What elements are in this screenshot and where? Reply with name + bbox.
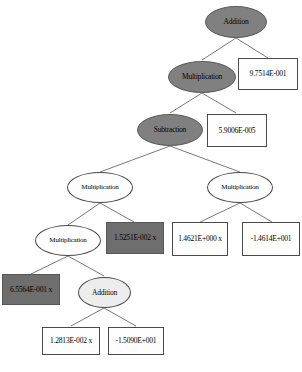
node-label: Subtraction (154, 126, 186, 134)
edge-addition2-const7 (71, 308, 104, 326)
edge-multleft-multleftleft (68, 203, 100, 225)
node-label: Multiplication (49, 237, 86, 244)
node-multiplication-right[interactable]: Multiplication (207, 172, 273, 203)
node-addition-2[interactable]: Addition (78, 277, 131, 308)
node-multiplication-1[interactable]: Multiplication (168, 61, 236, 93)
node-label: -1.4614E+001 (251, 235, 292, 243)
node-label: 1.5251E-002 x (114, 234, 156, 242)
node-multiplication-left[interactable]: Multiplication (67, 172, 133, 203)
node-label: Multiplication (81, 184, 118, 191)
edge-multleft-const3 (100, 203, 134, 222)
node-terminal-1-4621e000x[interactable]: 1.4621E+000 x (172, 222, 228, 256)
edge-multright-const5 (240, 203, 272, 222)
node-terminal-minus-1-5090e001[interactable]: -1.5090E+001 (108, 327, 164, 355)
node-subtraction[interactable]: Subtraction (137, 114, 203, 146)
node-terminal-1-5251e-002x[interactable]: 1.5251E-002 x (106, 222, 164, 254)
edge-addition2-const8 (104, 308, 136, 326)
edge-multiplication-const2 (202, 93, 236, 113)
node-label: 6.5564E-001 x (10, 286, 52, 294)
node-label: Addition (223, 18, 248, 26)
node-label: 5.9006E-005 (219, 127, 256, 135)
node-terminal-6-5564e-001x[interactable]: 6.5564E-001 x (2, 274, 60, 305)
edge-subtraction-mult-left (100, 146, 170, 172)
edge-addition-multiplication (202, 38, 236, 60)
node-label: Addition (92, 289, 117, 297)
edge-multiplication-subtraction (170, 93, 202, 113)
node-label: 1.4621E+000 x (178, 235, 222, 243)
node-label: -1.5090E+001 (116, 337, 157, 345)
edge-subtraction-mult-right (170, 146, 240, 172)
figure-caption (0, 362, 302, 372)
edge-multright-const4 (200, 203, 240, 222)
edge-multll-addition2 (68, 256, 104, 276)
node-terminal-minus-1-4614e001[interactable]: -1.4614E+001 (242, 222, 300, 256)
node-label: Multiplication (182, 73, 222, 81)
node-label: 1.2813E-002 x (50, 337, 92, 345)
node-addition-root[interactable]: Addition (205, 6, 267, 38)
node-terminal-5-9006e-005[interactable]: 5.9006E-005 (207, 114, 267, 147)
edge-addition-const1 (236, 38, 268, 58)
node-multiplication-left-left[interactable]: Multiplication (35, 225, 101, 256)
node-terminal-9-7514e-001[interactable]: 9.7514E-001 (238, 58, 298, 90)
expression-tree-diagram: Addition Multiplication 9.7514E-001 Subt… (0, 0, 302, 372)
node-label: 9.7514E-001 (250, 70, 287, 78)
edge-multll-const6 (31, 256, 68, 274)
node-terminal-1-2813e-002x[interactable]: 1.2813E-002 x (42, 327, 100, 355)
node-label: Multiplication (221, 184, 258, 191)
